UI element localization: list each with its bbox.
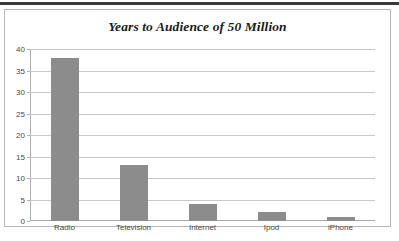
y-tick-label-0: 0 [21,217,25,226]
y-tick-label-5: 5 [21,195,25,204]
y-tick-label-20: 20 [16,131,25,140]
x-tick-label-ipod: Ipod [264,223,280,232]
x-tick-label-radio: Radio [54,223,75,232]
y-tick-label-10: 10 [16,174,25,183]
x-tick-label-television: Television [116,223,151,232]
page-top-rule [0,2,399,5]
y-tick-label-25: 25 [16,109,25,118]
bar-radio [51,58,79,221]
y-tick-label-35: 35 [16,66,25,75]
page-root: Years to Audience of 50 Million 05101520… [0,0,399,241]
chart-title: Years to Audience of 50 Million [5,19,390,35]
page-caption-fragment [6,233,336,239]
chart-figure: Years to Audience of 50 Million 05101520… [4,9,391,227]
bar-television [120,165,148,221]
x-tick-label-internet: Internet [189,223,216,232]
bar-internet [189,204,217,221]
y-tick-label-40: 40 [16,45,25,54]
x-tick-label-iphone: iPhone [328,223,353,232]
y-tick-mark-0 [27,221,30,222]
bar-series [30,49,375,221]
y-tick-label-15: 15 [16,152,25,161]
bar-iphone [327,217,355,221]
bar-ipod [258,212,286,221]
y-tick-label-30: 30 [16,88,25,97]
plot-area: 0510152025303540 [30,49,375,221]
